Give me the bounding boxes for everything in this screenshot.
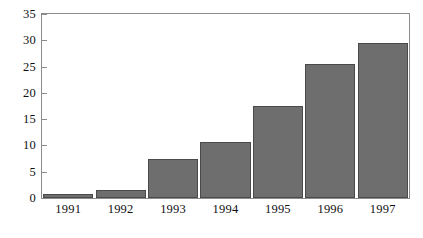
y-tick-label: 10 [0,139,36,152]
bar-rect [305,64,355,198]
y-axis: 05101520253035 [0,0,36,238]
bar-rect [253,106,303,198]
x-tick-label: 1996 [304,203,356,216]
bar [358,43,408,198]
y-tick-label: 30 [0,34,36,47]
bar [253,106,303,198]
bar [96,190,146,198]
bar [305,64,355,198]
bar-rect [148,159,198,198]
y-tick-label: 35 [0,8,36,21]
x-tick-label: 1993 [147,203,199,216]
y-tick-label: 0 [0,192,36,205]
y-tick-label: 15 [0,113,36,126]
x-tick-label: 1992 [94,203,146,216]
x-tick-label: 1994 [199,203,251,216]
x-axis: 1991199219931994199519961997 [42,203,409,225]
bar-rect [358,43,408,198]
bar [200,142,250,198]
bars-layer [42,14,409,198]
bar-rect [43,194,93,198]
bar-rect [96,190,146,198]
bar [43,194,93,198]
x-tick-label: 1991 [42,203,94,216]
bar-chart: 05101520253035 1991199219931994199519961… [0,0,423,238]
bar [148,159,198,198]
x-tick-label: 1995 [252,203,304,216]
x-tick-label: 1997 [357,203,409,216]
bar-rect [200,142,250,198]
y-tick-label: 5 [0,165,36,178]
y-tick-label: 25 [0,60,36,73]
y-tick-label: 20 [0,87,36,100]
